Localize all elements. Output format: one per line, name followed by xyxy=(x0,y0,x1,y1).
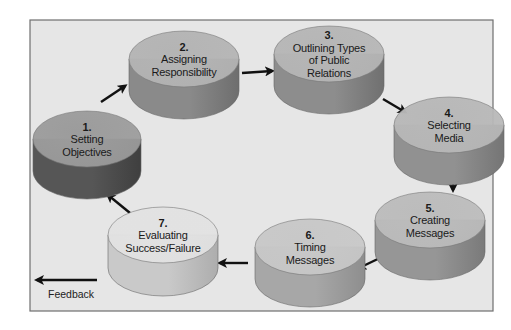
step-label: Objectives xyxy=(62,146,112,158)
step-label: Evaluating xyxy=(138,229,187,241)
process-step-4: 4.SelectingMedia xyxy=(394,97,504,185)
step-number: 4. xyxy=(445,107,454,119)
step-label: Messages xyxy=(286,254,335,266)
step-number: 1. xyxy=(83,121,92,133)
feedback-label: Feedback xyxy=(48,288,95,300)
step-label: Setting xyxy=(71,133,104,145)
process-step-7: 7.EvaluatingSuccess/Failure xyxy=(108,207,218,296)
step-label: Relations xyxy=(307,67,352,79)
step-label: of Public xyxy=(309,54,350,66)
process-step-2: 2.AssigningResponsibility xyxy=(129,31,239,119)
step-label: Timing xyxy=(294,241,325,253)
step-number: 6. xyxy=(306,229,315,241)
step-label: Success/Failure xyxy=(125,242,200,254)
step-label: Responsibility xyxy=(151,66,217,78)
process-step-6: 6.TimingMessages xyxy=(255,219,365,307)
step-label: Assigning xyxy=(161,53,207,65)
process-step-1: 1.SettingObjectives xyxy=(33,111,141,199)
pr-process-cycle-diagram: 1.SettingObjectives2.AssigningResponsibi… xyxy=(0,0,511,330)
step-number: 7. xyxy=(159,217,168,229)
step-label: Creating xyxy=(410,214,450,226)
step-number: 2. xyxy=(180,41,189,53)
step-label: Selecting xyxy=(427,119,471,131)
process-step-3: 3.Outlining Typesof PublicRelations xyxy=(274,26,384,114)
step-number: 5. xyxy=(426,202,435,214)
step-number: 3. xyxy=(325,29,334,41)
step-label: Outlining Types xyxy=(293,42,366,54)
step-label: Messages xyxy=(406,227,455,239)
step-label: Media xyxy=(435,132,465,144)
process-step-5: 5.CreatingMessages xyxy=(375,192,485,280)
